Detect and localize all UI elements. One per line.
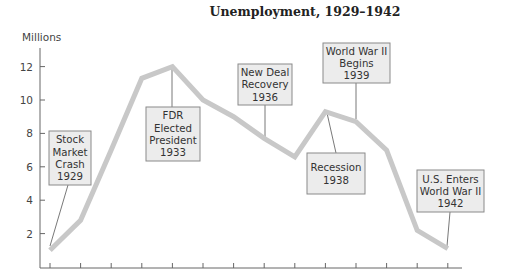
annotation-text: Recession xyxy=(311,162,362,173)
chart-canvas: Unemployment, 1929–1942 Millions 2468101… xyxy=(0,0,506,270)
annotations: StockMarketCrash1929FDRElectedPresident1… xyxy=(49,43,484,212)
y-tick-label: 10 xyxy=(20,94,33,106)
annotation-newdeal: New DealRecovery1936 xyxy=(238,64,292,105)
annotation-ww2begins: World War IIBegins1939 xyxy=(323,43,390,83)
annotation-text: Recovery xyxy=(241,79,288,90)
annotation-text: FDR xyxy=(163,110,184,121)
annotation-text: U.S. Enters xyxy=(422,174,478,185)
annotation-recession: Recession1938 xyxy=(307,153,365,194)
annotation-text: 1938 xyxy=(323,175,349,186)
annotation-text: World War II xyxy=(326,46,388,57)
annotation-text: Stock xyxy=(56,134,84,145)
y-tick-label: 2 xyxy=(26,228,33,240)
annotation-leader-line xyxy=(327,113,336,153)
annotation-text: President xyxy=(149,135,197,146)
annotation-crash: StockMarketCrash1929 xyxy=(49,131,91,185)
annotation-box xyxy=(307,153,365,194)
annotation-fdr: FDRElectedPresident1933 xyxy=(146,107,200,161)
annotation-text: Market xyxy=(52,147,87,158)
y-tick-label: 12 xyxy=(20,61,33,73)
y-tick-label: 4 xyxy=(26,194,33,206)
chart-title: Unemployment, 1929–1942 xyxy=(210,4,401,19)
y-axis-label: Millions xyxy=(22,31,61,43)
annotation-text: 1942 xyxy=(438,198,464,209)
unemployment-chart: Unemployment, 1929–1942 Millions 2468101… xyxy=(0,0,506,270)
y-tick-label: 8 xyxy=(26,127,33,139)
annotation-leader-line xyxy=(447,212,450,246)
annotation-text: 1933 xyxy=(160,147,186,158)
annotation-text: 1929 xyxy=(57,171,83,182)
annotation-text: 1939 xyxy=(344,70,370,81)
annotation-text: Crash xyxy=(55,159,84,170)
annotation-usenters: U.S. EntersWorld War II1942 xyxy=(417,170,484,212)
annotation-text: World War II xyxy=(420,186,482,197)
annotation-text: New Deal xyxy=(241,67,290,78)
annotation-text: Begins xyxy=(339,58,373,69)
y-tick-label: 6 xyxy=(26,161,33,173)
annotation-text: Elected xyxy=(154,123,192,134)
annotation-text: 1936 xyxy=(252,92,278,103)
